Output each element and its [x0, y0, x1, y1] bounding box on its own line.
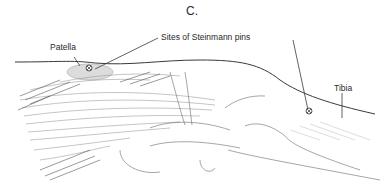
pin-marker-tibia [306, 108, 312, 114]
label-patella: Patella [50, 43, 76, 52]
knee-anatomy-diagram: C. Patella Sites of Steinmann pins Tibia [0, 0, 387, 192]
panel-label: C. [186, 4, 198, 18]
knee-illustration [0, 0, 387, 192]
pin-marker-patella [86, 65, 92, 71]
label-steinmann-pins: Sites of Steinmann pins [161, 33, 250, 42]
label-tibia: Tibia [334, 84, 352, 93]
